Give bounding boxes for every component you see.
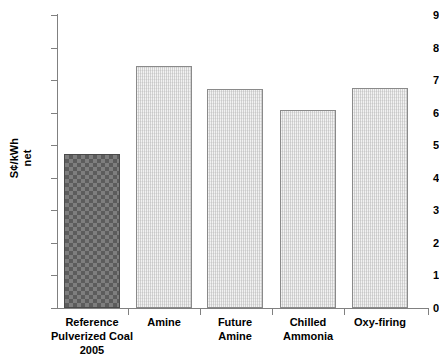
y-tick-mark [51, 243, 58, 244]
bar-future-amine [207, 89, 263, 308]
bar-reference-pulverized-coal-2005 [64, 154, 120, 308]
y-tick-mark [51, 15, 58, 16]
category-label-future-amine: Future Amine [195, 316, 275, 344]
y-tick-mark [51, 145, 58, 146]
y-tick-label: 8 [393, 43, 439, 54]
y-axis-title: S¢/kWh net [6, 108, 36, 208]
y-tick-mark [51, 210, 58, 211]
category-label-amine: Amine [124, 316, 204, 330]
category-label-chilled-ammonia: Chilled Ammonia [268, 316, 348, 344]
y-tick-label: 7 [393, 75, 439, 86]
bar-amine [136, 66, 192, 308]
bar-chilled-ammonia [280, 110, 336, 308]
y-tick-mark [51, 80, 58, 81]
y-axis-title-line-2: net [21, 150, 34, 167]
x-tick-mark [344, 309, 345, 315]
y-tick-label: 9 [393, 10, 439, 21]
y-tick-mark [51, 178, 58, 179]
y-tick-mark [51, 113, 58, 114]
y-tick-mark [51, 308, 58, 309]
x-tick-mark [200, 309, 201, 315]
x-tick-mark [428, 309, 429, 315]
bar-oxy-firing [352, 88, 408, 308]
x-tick-mark [272, 309, 273, 315]
x-axis-line [57, 308, 429, 309]
y-tick-mark [51, 48, 58, 49]
category-label-oxy-firing: Oxy-firing [340, 316, 420, 330]
y-axis-title-line-1: S¢/kWh [8, 138, 21, 178]
y-axis-line [57, 14, 58, 309]
y-tick-mark [51, 275, 58, 276]
x-tick-mark [128, 309, 129, 315]
